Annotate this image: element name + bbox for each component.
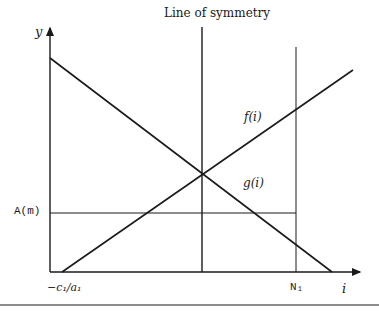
curve-g [50,58,332,272]
title-label: Line of symmetry [164,6,270,20]
curve-f-label: f(i) [244,110,262,124]
symmetry-diagram [0,0,379,314]
curve-g-label: g(i) [243,176,264,190]
y-axis-label: y [35,24,42,39]
n1-label: N₁ [290,281,303,293]
x-intercept-label: −c₁/a₁ [47,281,81,294]
am-label: A(m) [14,205,40,217]
x-axis-label: i [342,281,346,296]
